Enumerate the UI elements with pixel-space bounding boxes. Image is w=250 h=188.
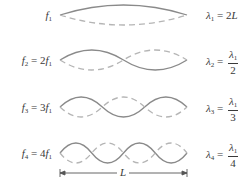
fraction-numerator-subscript: 1	[234, 101, 238, 109]
arrow-left-icon	[60, 171, 65, 175]
wavelength-label-3: λ3 = λ1 3	[206, 96, 238, 123]
lambda-subscript: 2	[211, 61, 215, 69]
solid-wave	[60, 143, 187, 163]
length-label: L	[117, 166, 129, 178]
wavelength-fraction: λ1 3	[228, 96, 238, 123]
length-symbol: L	[231, 9, 237, 21]
fraction-denominator: 4	[228, 157, 238, 169]
wavelength-equals: =	[217, 102, 223, 114]
wave-mode-3	[60, 97, 187, 117]
lambda-subscript: 1	[211, 15, 215, 23]
wavelength-label-4: λ4 = λ1 4	[206, 142, 238, 169]
lambda-subscript: 3	[211, 108, 215, 116]
wavelength-label-1: λ1 = 2L	[206, 10, 238, 23]
wavelength-equals: = 2	[217, 9, 231, 21]
wave-mode-2	[60, 50, 187, 70]
wave-mode-1	[60, 5, 187, 25]
fraction-numerator-subscript: 1	[234, 147, 238, 155]
wavelength-equals: =	[217, 148, 223, 160]
wavelength-fraction: λ1 2	[228, 49, 238, 76]
wavelength-label-2: λ2 = λ1 2	[206, 49, 238, 76]
dashed-wave	[60, 15, 187, 25]
arrow-right-icon	[182, 171, 187, 175]
dashed-wave	[60, 97, 187, 117]
lambda-subscript: 4	[211, 154, 215, 162]
wavelength-fraction: λ1 4	[228, 142, 238, 169]
wavelength-equals: =	[217, 55, 223, 67]
solid-wave	[60, 50, 187, 70]
wave-mode-4	[60, 143, 187, 163]
fraction-denominator: 3	[228, 111, 238, 123]
solid-wave	[60, 97, 187, 117]
fraction-denominator: 2	[228, 64, 238, 76]
solid-wave	[60, 5, 187, 15]
fraction-numerator-subscript: 1	[234, 54, 238, 62]
